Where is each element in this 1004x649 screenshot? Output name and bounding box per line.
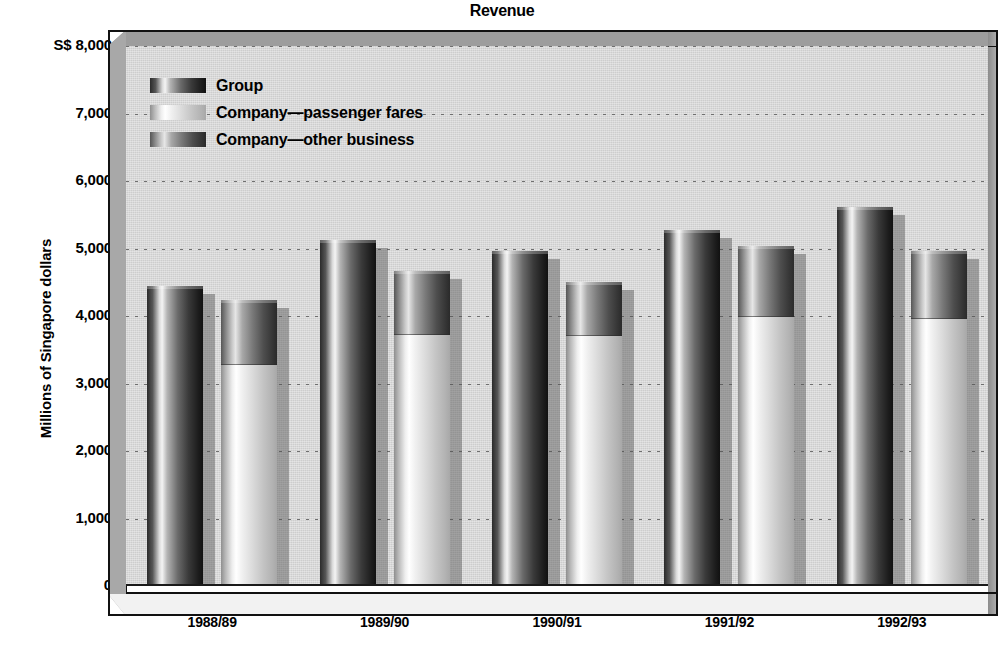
x-axis-baseline xyxy=(126,584,988,586)
frame-inner-bottom xyxy=(126,592,998,594)
revenue-chart: Revenue Millions of Singapore dollars S$… xyxy=(0,0,1004,649)
x-tick-label: 1990/91 xyxy=(497,614,617,630)
frame-outline-top xyxy=(108,30,998,32)
legend-item-other-business[interactable]: Company—other business xyxy=(150,126,423,153)
y-tick-label: 0 xyxy=(2,576,112,593)
chart-legend: Group Company—passenger fares Company—ot… xyxy=(150,72,423,153)
gridline xyxy=(126,46,988,47)
legend-swatch-passenger-fares-icon xyxy=(150,105,206,120)
bar-group[interactable] xyxy=(837,207,893,586)
bar-other-business[interactable] xyxy=(566,282,622,337)
legend-label-group: Group xyxy=(216,77,263,95)
bar-group[interactable] xyxy=(664,230,720,586)
x-tick-label: 1989/90 xyxy=(325,614,445,630)
bar-other-business[interactable] xyxy=(394,271,450,335)
bar-cap xyxy=(837,207,893,210)
legend-item-passenger-fares[interactable]: Company—passenger fares xyxy=(150,99,423,126)
bar-passenger-fares[interactable] xyxy=(738,317,794,586)
bar-cap xyxy=(147,286,203,289)
y-tick-label: 3,000 xyxy=(2,374,112,391)
x-tick-label: 1988/89 xyxy=(152,614,272,630)
y-axis-tick-labels: S$ 8,0007,0006,0005,0004,0003,0002,0001,… xyxy=(0,0,112,649)
bar-cap xyxy=(664,230,720,233)
bar-group[interactable] xyxy=(147,286,203,586)
x-tick-label: 1991/92 xyxy=(669,614,789,630)
bar-passenger-fares[interactable] xyxy=(566,336,622,586)
bar-passenger-fares[interactable] xyxy=(221,365,277,586)
bar-cap xyxy=(566,282,622,285)
bar-cap xyxy=(738,246,794,249)
y-tick-label: 5,000 xyxy=(2,239,112,256)
legend-item-group[interactable]: Group xyxy=(150,72,423,99)
x-tick-label: 1992/93 xyxy=(842,614,962,630)
segment-divider xyxy=(911,318,967,319)
legend-swatch-other-business-icon xyxy=(150,132,206,147)
bar-group[interactable] xyxy=(320,240,376,586)
legend-swatch-group-icon xyxy=(150,78,206,93)
bar-other-business[interactable] xyxy=(911,251,967,319)
segment-divider xyxy=(566,335,622,336)
frame-top-bevel xyxy=(108,30,998,46)
frame-outline-right xyxy=(996,30,998,616)
frame-outline-left xyxy=(108,30,110,616)
legend-label-other-business: Company—other business xyxy=(216,131,414,149)
y-tick-label: 4,000 xyxy=(2,306,112,323)
gridline xyxy=(126,181,988,182)
frame-left-bevel xyxy=(108,30,126,616)
bar-cap xyxy=(320,240,376,243)
y-tick-label: 1,000 xyxy=(2,509,112,526)
bar-cap xyxy=(394,271,450,274)
y-tick-label: 6,000 xyxy=(2,171,112,188)
bar-other-business[interactable] xyxy=(738,246,794,317)
segment-divider xyxy=(738,316,794,317)
chart-title: Revenue xyxy=(0,2,1004,20)
bar-cap xyxy=(492,251,548,254)
bar-cap xyxy=(221,300,277,303)
bar-passenger-fares[interactable] xyxy=(911,319,967,586)
bar-passenger-fares[interactable] xyxy=(394,335,450,586)
segment-divider xyxy=(394,334,450,335)
y-tick-label: 7,000 xyxy=(2,104,112,121)
bar-group[interactable] xyxy=(492,251,548,586)
bar-cap xyxy=(911,251,967,254)
bar-other-business[interactable] xyxy=(221,300,277,365)
y-tick-label: 2,000 xyxy=(2,441,112,458)
segment-divider xyxy=(221,364,277,365)
y-tick-label: S$ 8,000 xyxy=(2,36,112,53)
frame-bottom-bevel xyxy=(108,594,998,616)
legend-label-passenger-fares: Company—passenger fares xyxy=(216,104,423,122)
